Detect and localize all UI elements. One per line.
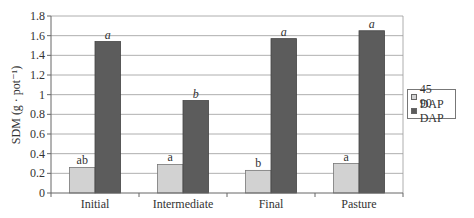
x-tick-label: Intermediate — [153, 197, 214, 211]
bar-chart-svg: 00.20.40.60.811.21.41.61.8 abaabbaaa Ini… — [0, 0, 474, 218]
bar-90-dap — [359, 31, 385, 193]
y-tick-label: 1.4 — [30, 48, 45, 62]
bar-90-dap — [183, 101, 209, 193]
bar-45-dap — [246, 170, 272, 193]
significance-letter: b — [193, 87, 199, 101]
y-tick-label: 1 — [39, 88, 45, 102]
y-tick-label: 1.2 — [30, 68, 45, 82]
x-tick-label: Pasture — [341, 197, 376, 211]
y-axis-label-text: SDM (g · pot⁻¹) — [9, 66, 24, 144]
y-tick-label: 1.6 — [30, 29, 45, 43]
significance-letter: a — [168, 150, 174, 164]
significance-letter: a — [281, 25, 287, 39]
bar-90-dap — [95, 42, 121, 193]
significance-letter: a — [344, 150, 350, 164]
y-axis-ticks: 00.20.40.60.811.21.41.61.8 — [30, 9, 51, 200]
y-tick-label: 1.8 — [30, 9, 45, 23]
y-tick-label: 0.4 — [30, 147, 45, 161]
legend: 45 DAP 90 DAP — [407, 89, 456, 119]
legend-label: 90 DAP — [420, 96, 455, 126]
legend-item-90-dap: 90 DAP — [408, 104, 455, 118]
significance-letter: a — [369, 17, 375, 31]
bars: abaabbaaa — [70, 17, 385, 193]
bar-45-dap — [158, 164, 184, 193]
y-tick-label: 0.2 — [30, 166, 45, 180]
significance-letter: a — [105, 28, 111, 42]
bar-45-dap — [334, 164, 360, 194]
bar-45-dap — [70, 167, 96, 193]
y-tick-label: 0.6 — [30, 127, 45, 141]
x-tick-label: Final — [259, 197, 284, 211]
significance-letter: ab — [77, 153, 88, 167]
legend-swatch-light-icon — [411, 94, 417, 100]
significance-letter: b — [255, 156, 261, 170]
y-tick-label: 0.8 — [30, 107, 45, 121]
x-tick-label: Initial — [81, 197, 110, 211]
bar-90-dap — [271, 39, 297, 193]
y-tick-label: 0 — [39, 186, 45, 200]
legend-swatch-dark-icon — [411, 108, 417, 114]
